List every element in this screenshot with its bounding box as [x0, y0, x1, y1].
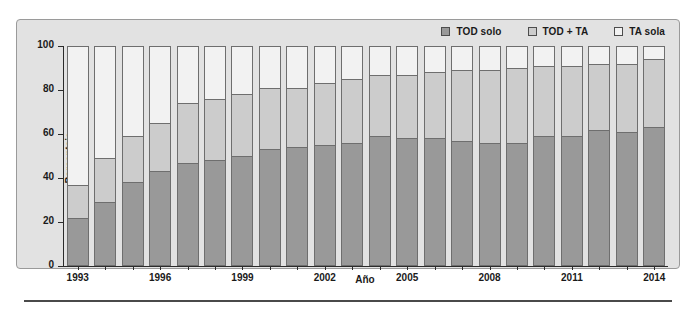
- bar-segment-tod-ta: [149, 123, 171, 171]
- bar-1994: [94, 46, 116, 266]
- bar-segment-ta-sola: [314, 46, 336, 83]
- x-tick: [599, 266, 600, 270]
- x-axis-title: Año: [63, 274, 667, 285]
- bar-segment-ta-sola: [204, 46, 226, 99]
- bar-segment-ta-sola: [451, 46, 473, 70]
- bar-2000: [259, 46, 281, 266]
- bar-segment-ta-sola: [231, 46, 253, 94]
- bar-2009: [506, 46, 528, 266]
- y-tick: 100: [58, 46, 63, 47]
- bar-segment-tod-ta: [314, 83, 336, 145]
- square-swatch-icon: [441, 27, 450, 36]
- bar-segment-ta-sola: [259, 46, 281, 88]
- bar-1998: [204, 46, 226, 266]
- bar-2008: [479, 46, 501, 266]
- legend-label: TOD + TA: [543, 26, 589, 37]
- y-tick-label: 100: [37, 39, 54, 50]
- bar-segment-tod-solo: [616, 132, 638, 266]
- bar-segment-tod-solo: [177, 163, 199, 266]
- x-tick: [325, 266, 326, 270]
- x-tick: [215, 266, 216, 270]
- plot-area: 020406080100 Porcentaje 1993199619992002…: [63, 46, 667, 266]
- y-tick: 0: [58, 266, 63, 267]
- x-tick: [270, 266, 271, 270]
- bar-2002: [314, 46, 336, 266]
- legend-item-ta-sola: TA sola: [614, 26, 665, 37]
- bar-segment-tod-ta: [369, 75, 391, 137]
- bar-segment-tod-solo: [94, 202, 116, 266]
- bar-segment-tod-solo: [588, 130, 610, 266]
- bar-2006: [424, 46, 446, 266]
- chart-legend: TOD solo TOD + TA TA sola: [441, 26, 665, 37]
- x-tick: [352, 266, 353, 270]
- bar-segment-ta-sola: [506, 46, 528, 68]
- y-tick-label: 40: [43, 171, 54, 182]
- bar-segment-tod-solo: [643, 127, 665, 266]
- bar-segment-tod-solo: [451, 141, 473, 266]
- bar-segment-ta-sola: [369, 46, 391, 75]
- square-swatch-icon: [528, 27, 537, 36]
- x-tick: [407, 266, 408, 270]
- y-tick-label: 0: [48, 259, 54, 270]
- bar-segment-tod-solo: [67, 218, 89, 266]
- x-axis-line: [63, 266, 668, 267]
- x-tick: [517, 266, 518, 270]
- bar-segment-tod-solo: [479, 143, 501, 266]
- legend-item-tod-plus-ta: TOD + TA: [528, 26, 589, 37]
- bar-segment-ta-sola: [286, 46, 308, 88]
- bar-2004: [369, 46, 391, 266]
- bar-segment-tod-ta: [177, 103, 199, 162]
- bar-segment-ta-sola: [122, 46, 144, 136]
- bar-segment-ta-sola: [341, 46, 363, 79]
- x-tick: [627, 266, 628, 270]
- bar-segment-ta-sola: [533, 46, 555, 66]
- y-tick-label: 60: [43, 127, 54, 138]
- bar-2012: [588, 46, 610, 266]
- bar-segment-tod-solo: [204, 160, 226, 266]
- bar-2007: [451, 46, 473, 266]
- bar-segment-ta-sola: [67, 46, 89, 185]
- x-tick: [160, 266, 161, 270]
- bar-2010: [533, 46, 555, 266]
- x-tick: [490, 266, 491, 270]
- bar-segment-tod-ta: [451, 70, 473, 140]
- bar-segment-tod-ta: [122, 136, 144, 182]
- bar-2003: [341, 46, 363, 266]
- bar-segment-tod-solo: [561, 136, 583, 266]
- bar-segment-tod-ta: [204, 99, 226, 161]
- bar-segment-tod-solo: [424, 138, 446, 266]
- bar-segment-tod-solo: [396, 138, 418, 266]
- bar-segment-ta-sola: [479, 46, 501, 70]
- bar-segment-tod-solo: [149, 171, 171, 266]
- bar-segment-tod-ta: [479, 70, 501, 143]
- x-tick: [462, 266, 463, 270]
- bar-segment-ta-sola: [588, 46, 610, 64]
- bar-segment-tod-solo: [533, 136, 555, 266]
- bar-segment-tod-ta: [616, 64, 638, 132]
- square-swatch-icon: [614, 27, 623, 36]
- bar-segment-ta-sola: [561, 46, 583, 66]
- bar-segment-tod-ta: [506, 68, 528, 143]
- y-tick: 40: [58, 178, 63, 179]
- bar-segment-tod-solo: [122, 182, 144, 266]
- bar-1999: [231, 46, 253, 266]
- chart-figure: TOD solo TOD + TA TA sola 020406080100 P…: [0, 0, 697, 319]
- bar-2005: [396, 46, 418, 266]
- x-tick: [544, 266, 545, 270]
- bar-segment-tod-ta: [94, 158, 116, 202]
- x-tick: [242, 266, 243, 270]
- bar-segment-tod-solo: [506, 143, 528, 266]
- bar-segment-tod-ta: [561, 66, 583, 136]
- bar-segment-tod-ta: [286, 88, 308, 147]
- bar-segment-tod-ta: [231, 94, 253, 156]
- x-tick: [133, 266, 134, 270]
- bar-1996: [149, 46, 171, 266]
- x-tick: [654, 266, 655, 270]
- bar-segment-ta-sola: [643, 46, 665, 59]
- bar-segment-tod-ta: [588, 64, 610, 130]
- bar-segment-tod-solo: [231, 156, 253, 266]
- bar-1993: [67, 46, 89, 266]
- y-tick-label: 20: [43, 215, 54, 226]
- bar-segment-tod-solo: [314, 145, 336, 266]
- bar-2014: [643, 46, 665, 266]
